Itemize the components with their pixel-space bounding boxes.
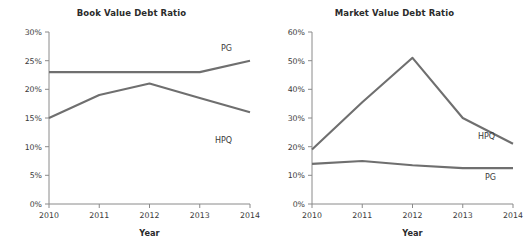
y-tick-label-6: 60% xyxy=(288,28,305,37)
y-tick-label-1: 5% xyxy=(30,171,42,180)
y-tick-label-5: 25% xyxy=(25,57,42,66)
series-label-hpq: HPQ xyxy=(215,136,232,145)
series-label-hpq: HPQ xyxy=(478,132,495,141)
y-tick-label-0: 0% xyxy=(30,200,42,209)
x-tick-label-2010: 2010 xyxy=(302,211,322,220)
chart-canvas-market-value: 0% 10% 20% 30% 40% 50% 60% 2010 2011 201… xyxy=(263,0,526,249)
y-tick-label-3: 15% xyxy=(25,114,42,123)
y-tick-label-2: 20% xyxy=(288,143,305,152)
y-tick-marks-book-value xyxy=(45,32,49,204)
axis-lines-book-value xyxy=(49,32,250,204)
y-tick-label-4: 20% xyxy=(25,85,42,94)
y-tick-label-4: 40% xyxy=(288,85,305,94)
y-tick-marks-market-value xyxy=(308,32,312,204)
series-label-pg: PG xyxy=(221,44,232,53)
x-tick-label-2011: 2011 xyxy=(89,211,109,220)
y-tick-label-5: 50% xyxy=(288,57,305,66)
y-tick-label-0: 0% xyxy=(293,200,305,209)
x-tick-label-2010: 2010 xyxy=(39,211,59,220)
chart-market-value-debt-ratio: Market Value Debt Ratio 0% 10% 20% 30% 4… xyxy=(263,0,526,249)
x-axis-title-book-value: Year xyxy=(138,228,160,238)
x-tick-marks-market-value xyxy=(312,204,513,208)
chart-book-value-debt-ratio: Book Value Debt Ratio 0% 5% 10% 15% 20% … xyxy=(0,0,263,249)
x-axis-title-market-value: Year xyxy=(401,228,423,238)
y-tick-label-1: 10% xyxy=(288,171,305,180)
x-tick-label-2014: 2014 xyxy=(240,211,260,220)
y-tick-label-6: 30% xyxy=(25,28,42,37)
x-tick-label-2013: 2013 xyxy=(190,211,210,220)
x-tick-label-2012: 2012 xyxy=(403,211,423,220)
series-line-pg xyxy=(49,61,250,72)
x-tick-label-2011: 2011 xyxy=(352,211,372,220)
x-tick-label-2013: 2013 xyxy=(453,211,473,220)
x-tick-label-2012: 2012 xyxy=(140,211,160,220)
x-tick-marks-book-value xyxy=(49,204,250,208)
x-tick-label-2014: 2014 xyxy=(503,211,523,220)
y-tick-label-2: 10% xyxy=(25,143,42,152)
chart-page: Book Value Debt Ratio 0% 5% 10% 15% 20% … xyxy=(0,0,526,249)
chart-canvas-book-value: 0% 5% 10% 15% 20% 25% 30% 2010 2011 2012… xyxy=(0,0,263,249)
series-label-pg: PG xyxy=(485,173,496,182)
series-line-hpq xyxy=(49,84,250,118)
y-tick-label-3: 30% xyxy=(288,114,305,123)
series-line-pg xyxy=(312,161,513,168)
